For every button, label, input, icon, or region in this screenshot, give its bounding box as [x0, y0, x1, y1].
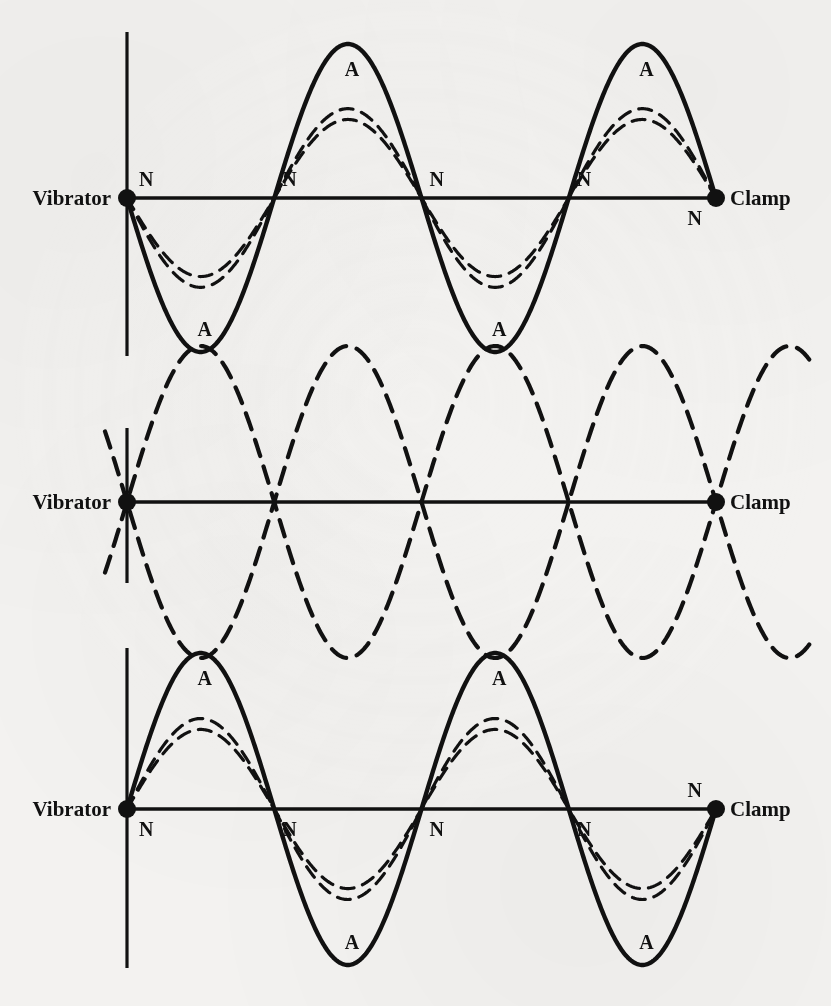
clamp-dot — [707, 189, 725, 207]
vibrator-label: Vibrator — [32, 797, 111, 821]
panel-middle: VibratorClamp — [32, 346, 812, 658]
node-label: N — [688, 779, 703, 801]
antinode-label: A — [492, 318, 507, 340]
node-label: N — [282, 168, 297, 190]
antinode-label: A — [197, 318, 212, 340]
vibrator-dot — [118, 800, 136, 818]
node-label: N — [577, 168, 592, 190]
vibrator-dot — [118, 189, 136, 207]
antinode-label: A — [639, 931, 654, 953]
vibrator-label: Vibrator — [32, 490, 111, 514]
figure-page: VibratorClampNNNNNAAAAVibratorClampVibra… — [0, 0, 831, 1006]
antinode-label: A — [639, 58, 654, 80]
panel-bottom: VibratorClampNNNNNAAAA — [32, 648, 790, 968]
node-label: N — [430, 818, 445, 840]
standing-wave-figure: VibratorClampNNNNNAAAAVibratorClampVibra… — [0, 0, 831, 1006]
node-label: N — [139, 818, 154, 840]
clamp-label: Clamp — [730, 490, 791, 514]
node-label: N — [688, 207, 703, 229]
antinode-label: A — [345, 931, 360, 953]
antinode-label: A — [345, 58, 360, 80]
node-label: N — [282, 818, 297, 840]
clamp-label: Clamp — [730, 797, 791, 821]
vibrator-dot — [118, 493, 136, 511]
clamp-label: Clamp — [730, 186, 791, 210]
antinode-label: A — [197, 667, 212, 689]
node-label: N — [430, 168, 445, 190]
clamp-dot — [707, 493, 725, 511]
node-label: N — [139, 168, 154, 190]
node-label: N — [577, 818, 592, 840]
clamp-dot — [707, 800, 725, 818]
panel-top: VibratorClampNNNNNAAAA — [32, 32, 790, 356]
vibrator-label: Vibrator — [32, 186, 111, 210]
antinode-label: A — [492, 667, 507, 689]
